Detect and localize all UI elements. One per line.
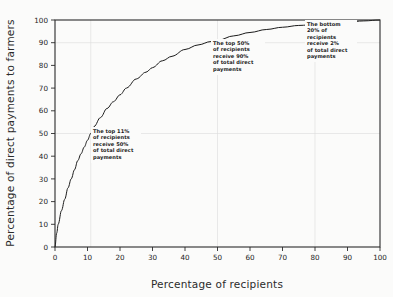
y-tick-label: 40: [39, 152, 49, 161]
y-tick-label: 70: [39, 84, 49, 93]
y-axis-title: Percentage of direct payments to farmers: [4, 19, 16, 246]
x-tick-label: 10: [83, 253, 93, 262]
y-tick-label: 90: [39, 38, 49, 47]
annotation-line: The bottom: [307, 21, 341, 27]
x-tick-label: 90: [343, 253, 353, 262]
annotation-bottom-20-percent: The bottom20% ofrecipientsreceive 2%of t…: [305, 20, 357, 62]
y-axis-tick-labels: 0102030405060708090100: [34, 16, 48, 252]
x-tick-label: 50: [213, 253, 223, 262]
y-axis-ticks: [51, 20, 55, 247]
x-tick-label: 30: [148, 253, 158, 262]
annotation-top-50-percent: The top 50%of recipientsreceive 90%of to…: [211, 39, 265, 75]
annotation-line: payments: [213, 66, 242, 73]
x-tick-label: 100: [373, 253, 387, 262]
y-tick-label: 20: [39, 197, 49, 206]
y-tick-label: 0: [43, 243, 48, 252]
y-tick-label: 60: [39, 106, 49, 115]
annotation-line: receive 90%: [213, 53, 248, 59]
x-tick-label: 80: [310, 253, 320, 262]
x-axis-title: Percentage of recipients: [151, 278, 283, 290]
annotation-line: receive 50%: [93, 141, 128, 147]
annotation-line: of total direct: [213, 59, 254, 65]
annotation-line: of total direct: [307, 47, 348, 53]
lorenz-curve-chart: 0102030405060708090100 01020304050607080…: [0, 0, 393, 297]
annotation-top-11-percent: The top 11%of recipientsreceive 50%of to…: [91, 127, 141, 163]
y-tick-label: 80: [39, 61, 49, 70]
y-tick-label: 10: [39, 220, 49, 229]
annotation-line: of total direct: [93, 147, 134, 153]
annotation-line: payments: [93, 154, 122, 161]
x-tick-label: 20: [115, 253, 125, 262]
x-axis-tick-labels: 0102030405060708090100: [53, 253, 388, 262]
x-tick-label: 60: [245, 253, 255, 262]
x-tick-label: 40: [180, 253, 190, 262]
chart-canvas: 0102030405060708090100 01020304050607080…: [0, 0, 393, 297]
y-tick-label: 100: [34, 16, 48, 25]
y-tick-label: 30: [39, 175, 49, 184]
x-tick-label: 0: [53, 253, 58, 262]
y-tick-label: 50: [39, 129, 49, 138]
x-tick-label: 70: [278, 253, 288, 262]
annotation-line: receive 2%: [307, 40, 339, 46]
annotation-line: 20% of: [307, 27, 328, 33]
annotation-line: payments: [307, 53, 336, 60]
x-axis-ticks: [55, 247, 380, 251]
